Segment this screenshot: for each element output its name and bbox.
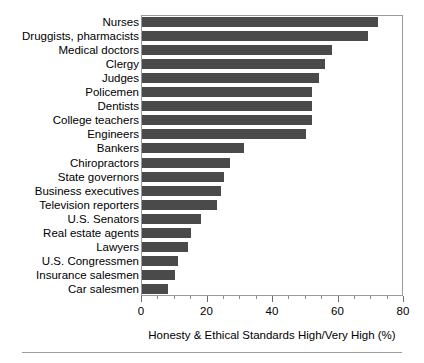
bar-category-label: Policemen [85,85,139,99]
bar-category-label: College teachers [53,113,139,127]
bar [142,270,175,280]
bar [142,143,244,153]
x-tick-minor [157,296,158,299]
bar-row: Nurses [0,15,403,29]
x-tick-minor [321,296,322,299]
x-tick-minor [174,296,175,299]
bar-category-label: Clergy [106,57,139,71]
bar-category-label: State governors [58,170,139,184]
bar-category-label: Chiropractors [70,156,139,170]
bar [142,115,312,125]
bar-category-label: Judges [102,71,139,85]
bar [142,17,378,27]
x-tick-major [338,296,339,302]
bar-row: Engineers [0,127,403,141]
x-tick-minor [288,296,289,299]
bar [142,284,168,294]
bar-category-label: Bankers [97,141,139,155]
bar-row: Druggists, pharmacists [0,29,403,43]
bar [142,242,188,252]
bar-row: Real estate agents [0,226,403,240]
bar-category-label: Insurance salesmen [36,268,139,282]
bar-row: Judges [0,71,403,85]
x-tick-major [403,296,404,302]
x-tick-major [207,296,208,302]
x-tick-label: 20 [200,304,213,318]
x-tick-minor [256,296,257,299]
bar-row: Bankers [0,141,403,155]
bar [142,129,306,139]
bar [142,186,221,196]
x-tick-minor [305,296,306,299]
bar-row: Chiropractors [0,156,403,170]
bar-category-label: Dentists [97,99,139,113]
x-tick-minor [190,296,191,299]
bar-category-label: Engineers [87,127,139,141]
x-tick-label: 60 [331,304,344,318]
bar-row: Medical doctors [0,43,403,57]
bar [142,73,319,83]
x-axis-title: Honesty & Ethical Standards High/Very Hi… [141,329,403,341]
bar-row: Television reporters [0,198,403,212]
x-tick-minor [387,296,388,299]
x-tick-minor [223,296,224,299]
x-tick-label: 80 [397,304,410,318]
x-tick-label: 40 [266,304,279,318]
x-tick-minor [354,296,355,299]
bar [142,200,217,210]
bar-category-label: Lawyers [96,240,139,254]
bar [142,101,312,111]
bar-row: Car salesmen [0,282,403,296]
bar-row: Lawyers [0,240,403,254]
bar-chart-figure: NursesDruggists, pharmacistsMedical doct… [0,0,424,363]
bar [142,158,230,168]
bar [142,31,368,41]
bar [142,256,178,266]
x-tick-label: 0 [138,304,144,318]
bar [142,214,201,224]
x-tick-major [141,296,142,302]
x-tick-minor [239,296,240,299]
bar-row: Dentists [0,99,403,113]
bar-row: State governors [0,170,403,184]
bar [142,172,224,182]
bar-category-label: Medical doctors [58,43,139,57]
bar [142,87,312,97]
bar [142,45,332,55]
bar-row: Clergy [0,57,403,71]
x-tick-major [272,296,273,302]
bar-category-label: Druggists, pharmacists [22,29,139,43]
bar-row: U.S. Congressmen [0,254,403,268]
x-axis-title-text: Honesty & Ethical Standards High/Very Hi… [148,329,395,341]
x-tick-minor [370,296,371,299]
bar-category-label: U.S. Senators [67,212,139,226]
bar-category-label: Business executives [35,184,139,198]
bar-row: College teachers [0,113,403,127]
bar-row: Policemen [0,85,403,99]
bar-row: Insurance salesmen [0,268,403,282]
bottom-divider [22,352,402,353]
x-axis-ticks [141,296,403,304]
bar [142,59,325,69]
bar-rows: NursesDruggists, pharmacistsMedical doct… [0,15,403,295]
x-axis-tick-labels: 020406080 [141,304,403,320]
bar-category-label: Real estate agents [43,226,139,240]
bar [142,228,191,238]
bar-category-label: Nurses [103,15,139,29]
bar-category-label: U.S. Congressmen [42,254,139,268]
bar-category-label: Car salesmen [68,282,139,296]
bar-category-label: Television reporters [39,198,139,212]
bar-row: Business executives [0,184,403,198]
bar-row: U.S. Senators [0,212,403,226]
